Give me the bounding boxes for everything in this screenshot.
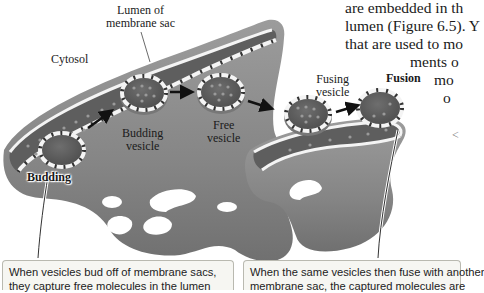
- callout-fusion-line2: membrane sac, the captured molecules are: [250, 279, 454, 293]
- label-budding: Budding: [27, 171, 71, 184]
- callout-budding-line1: When vesicles bud off of membrane sacs,: [9, 265, 227, 279]
- lumen-leader-line: [141, 32, 150, 62]
- body-text-line-3: that are used to mo: [345, 34, 463, 53]
- label-lumen-of-membrane-sac: Lumen of membrane sac: [106, 4, 175, 30]
- arrow-fusing-to-fusion: [336, 106, 356, 112]
- label-free-vesicle: Free vesicle: [207, 119, 240, 145]
- label-budding-vesicle-line2: vesicle: [122, 140, 163, 153]
- body-text-line-5: mo: [434, 70, 454, 89]
- label-cytosol: Cytosol: [51, 53, 88, 66]
- budding-site-vesicle: [40, 133, 84, 167]
- label-fusing-vesicle-line2: vesicle: [316, 86, 349, 99]
- free-vesicle: [197, 75, 245, 114]
- body-text-line-2: lumen (Figure 6.5). Y: [345, 16, 480, 35]
- label-fusion: Fusion: [386, 72, 421, 85]
- callout-fusion-line1: When the same vesicles then fuse with an…: [250, 265, 454, 279]
- body-text-line-1: are embedded in th: [345, 0, 463, 17]
- label-budding-vesicle: Budding vesicle: [122, 127, 163, 153]
- label-fusing-vesicle: Fusing vesicle: [316, 73, 349, 99]
- body-text-line-4: ments o: [410, 52, 459, 71]
- label-lumen-line2: membrane sac: [106, 17, 175, 30]
- body-text-line-6: o: [443, 88, 451, 107]
- callout-budding: When vesicles bud off of membrane sacs, …: [2, 260, 234, 290]
- body-text-line-7: <: [452, 126, 459, 145]
- label-free-vesicle-line2: vesicle: [207, 132, 240, 145]
- fusing-vesicle: [284, 97, 332, 136]
- budding-vesicle: [120, 76, 168, 115]
- callout-fusion: When the same vesicles then fuse with an…: [243, 260, 461, 290]
- callout-budding-line2: they capture free molecules in the lumen: [9, 279, 227, 293]
